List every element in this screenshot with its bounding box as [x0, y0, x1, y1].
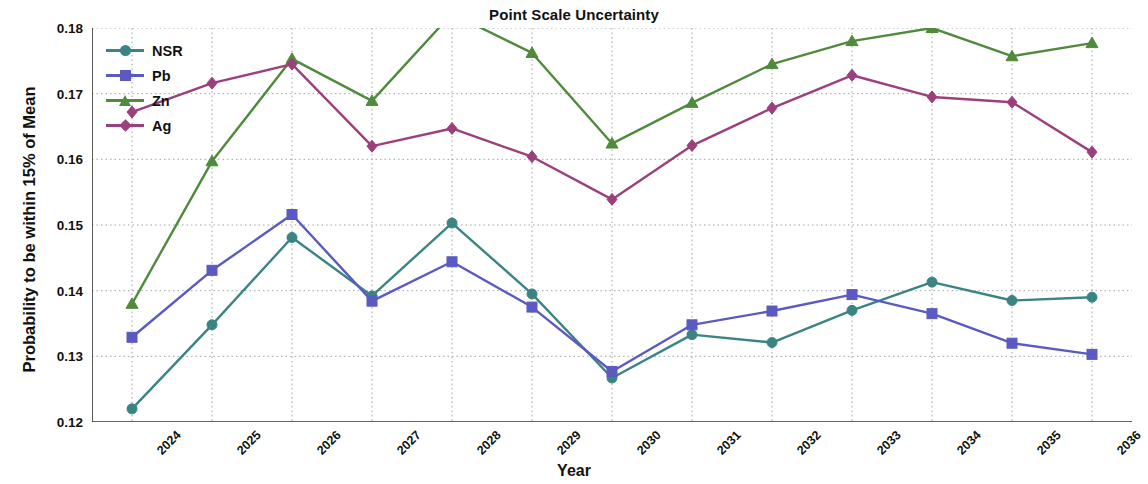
legend-item-pb[interactable]: Pb [106, 63, 183, 88]
x-tick-label: 2032 [794, 428, 824, 458]
legend-item-nsr[interactable]: NSR [106, 38, 183, 63]
legend-marker-square-icon [120, 70, 131, 81]
legend-swatch-zn [106, 94, 144, 108]
legend-item-zn[interactable]: Zn [106, 88, 183, 113]
data-point-marker [926, 28, 938, 33]
data-point-marker [287, 232, 297, 242]
x-axis-label: Year [0, 462, 1148, 480]
data-point-marker [607, 366, 617, 376]
y-tick-label: 0.13 [57, 349, 83, 364]
legend-label: NSR [152, 43, 183, 59]
x-tick-label: 2029 [554, 428, 584, 458]
data-point-marker [527, 289, 537, 299]
data-point-marker [1007, 96, 1017, 108]
plot-svg [92, 28, 1132, 422]
data-point-marker [1087, 146, 1097, 158]
plot-area: 0.120.130.140.150.160.170.18 20242025202… [92, 28, 1132, 422]
data-point-marker [927, 277, 937, 287]
series-pb [127, 209, 1097, 376]
data-point-marker [207, 265, 217, 275]
data-point-marker [1007, 296, 1017, 306]
data-point-marker [1007, 338, 1017, 348]
data-point-marker [127, 404, 137, 414]
data-point-marker [127, 332, 137, 342]
y-tick-label: 0.16 [57, 152, 83, 167]
data-point-marker [767, 306, 777, 316]
y-axis-label: Probability to be within 15% of Mean [20, 20, 39, 440]
legend-label: Pb [152, 68, 171, 84]
data-point-marker [1086, 37, 1098, 48]
y-tick-label: 0.15 [57, 218, 83, 233]
data-point-marker [207, 320, 217, 330]
data-point-marker [1087, 292, 1097, 302]
y-tick-label: 0.18 [57, 21, 83, 36]
x-tick-label: 2028 [474, 428, 504, 458]
data-point-marker [927, 91, 937, 103]
legend-marker-triangle-icon [119, 95, 131, 106]
x-tick-label: 2025 [234, 428, 264, 458]
legend-label: Ag [152, 118, 171, 134]
data-point-marker [1087, 349, 1097, 359]
data-point-marker [687, 140, 697, 152]
data-point-marker [447, 257, 457, 267]
data-point-marker [847, 69, 857, 81]
data-point-marker [927, 309, 937, 319]
x-tick-label: 2034 [954, 428, 984, 458]
x-tick-label: 2027 [394, 428, 424, 458]
x-tick-label: 2026 [314, 428, 344, 458]
legend-swatch-pb [106, 69, 144, 83]
y-tick-label: 0.12 [57, 415, 83, 430]
data-point-marker [847, 305, 857, 315]
x-tick-label: 2033 [874, 428, 904, 458]
legend-swatch-ag [106, 119, 144, 133]
x-tick-label: 2035 [1034, 428, 1064, 458]
legend-item-ag[interactable]: Ag [106, 113, 183, 138]
y-tick-label: 0.17 [57, 86, 83, 101]
data-point-marker [687, 330, 697, 340]
x-tick-label: 2031 [714, 428, 744, 458]
data-point-marker [447, 218, 457, 228]
data-point-marker [207, 77, 217, 89]
x-tick-label: 2024 [154, 428, 184, 458]
data-point-marker [767, 338, 777, 348]
data-point-marker [847, 290, 857, 300]
legend-marker-diamond-icon [119, 119, 132, 132]
legend-swatch-nsr [106, 44, 144, 58]
data-point-marker [287, 209, 297, 219]
legend-label: Zn [152, 93, 170, 109]
data-point-marker [687, 320, 697, 330]
data-point-marker [527, 151, 537, 163]
data-point-marker [607, 193, 617, 205]
x-tick-label: 2030 [634, 428, 664, 458]
data-point-marker [126, 298, 138, 309]
chart-title: Point Scale Uncertainty [0, 6, 1148, 23]
data-point-marker [447, 122, 457, 134]
chart-legend: NSRPbZnAg [104, 36, 189, 140]
x-tick-label: 2036 [1114, 428, 1144, 458]
chart-figure: Point Scale Uncertainty Probability to b… [0, 0, 1148, 484]
legend-marker-circle-icon [120, 45, 131, 56]
data-point-marker [367, 296, 377, 306]
y-tick-label: 0.14 [57, 283, 83, 298]
data-point-marker [767, 102, 777, 114]
data-point-marker [527, 302, 537, 312]
